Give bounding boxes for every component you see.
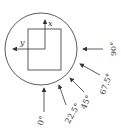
- x-axis-label: x: [48, 19, 53, 28]
- arrow-67-5: [80, 64, 100, 75]
- specimen-rectangle: [28, 29, 61, 70]
- arrow-45: [70, 78, 84, 92]
- loading-direction-diagram: x y 0° 22.5° 45° 67.5° 90°: [0, 0, 121, 128]
- arrow-22-5: [59, 85, 66, 105]
- label-67-5: 67.5°: [98, 72, 114, 96]
- label-0: 0°: [36, 115, 47, 126]
- coordinate-axes: x y: [13, 19, 53, 49]
- label-90: 90°: [109, 42, 118, 56]
- label-45: 45°: [79, 94, 93, 111]
- y-axis-label: y: [19, 38, 25, 47]
